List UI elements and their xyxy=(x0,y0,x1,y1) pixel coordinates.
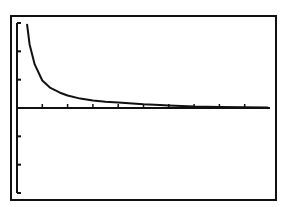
graph-canvas xyxy=(0,0,285,207)
calculator-graph-screen xyxy=(0,0,285,207)
function-curve xyxy=(27,25,267,108)
